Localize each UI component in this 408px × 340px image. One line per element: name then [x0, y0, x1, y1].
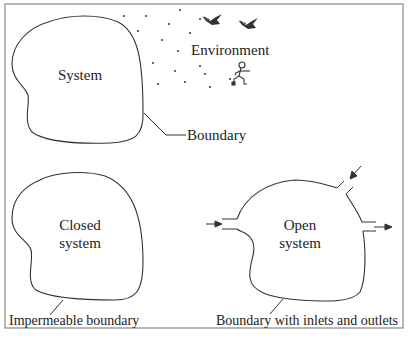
bird-icon	[202, 14, 222, 25]
boundary-label: Boundary	[187, 127, 247, 143]
open-system-label-line1: Open	[284, 217, 317, 233]
closed-system-label-line1: Closed	[59, 217, 101, 233]
open-system-boundary	[237, 180, 337, 219]
open-system-label-line2: system	[279, 235, 321, 251]
open-system-panel: Open system Boundary with inlets and out…	[206, 166, 398, 328]
impermeable-boundary-caption: Impermeable boundary	[9, 313, 139, 328]
open-boundary-caption: Boundary with inlets and outlets	[216, 313, 398, 328]
closed-system-label-line2: system	[59, 235, 101, 251]
running-person-icon	[232, 62, 250, 85]
closed-system-panel: Closed system Impermeable boundary	[9, 173, 143, 328]
bird-icon	[238, 18, 258, 29]
arrow-right-icon	[385, 224, 392, 230]
boundary-leader-line	[144, 113, 186, 135]
inlet-left	[206, 219, 237, 229]
system-panel: System Boundary Environment	[12, 9, 270, 143]
inlet-top-right	[337, 166, 361, 194]
open-system-boundary	[346, 194, 362, 222]
open-boundary-leader-line	[270, 299, 283, 314]
outlet-right	[362, 222, 392, 231]
thermodynamic-systems-diagram: System Boundary Environment	[0, 0, 408, 340]
system-label: System	[58, 67, 103, 83]
environment-label: Environment	[191, 42, 270, 58]
arrow-right-icon	[215, 221, 222, 227]
